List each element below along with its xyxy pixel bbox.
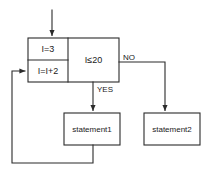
flowchart-diagram: I=3 I=I+2 I≤20 statement1 statement2 NO … bbox=[0, 0, 215, 180]
statement2-box bbox=[144, 113, 200, 145]
no-branch-arrow bbox=[119, 62, 165, 111]
statement1-box bbox=[64, 113, 120, 145]
flowchart-canvas bbox=[0, 0, 215, 180]
